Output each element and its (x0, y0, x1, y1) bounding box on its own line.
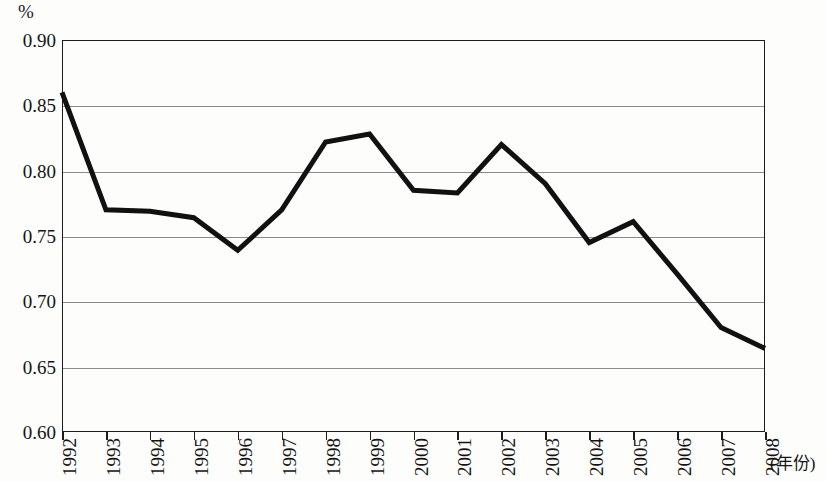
x-tick-label: 1995 (191, 438, 210, 476)
x-tick-label: 1999 (367, 438, 386, 476)
series-plot (62, 40, 765, 432)
y-axis-tick-labels: 0.900.850.800.750.700.650.60 (0, 40, 56, 432)
line-chart: % 0.900.850.800.750.700.650.60 199219931… (0, 0, 827, 481)
y-tick-label: 0.90 (0, 31, 56, 50)
x-tick-label: 2000 (411, 438, 430, 476)
x-tick-label: 2005 (631, 438, 650, 476)
x-tick-label: 1994 (147, 438, 166, 476)
y-axis-unit-label: % (18, 2, 34, 21)
x-axis-caption: (年份) (770, 455, 815, 472)
x-tick-label: 2001 (455, 438, 474, 476)
x-tick-label: 2004 (587, 438, 606, 476)
x-tick-label: 1993 (103, 438, 122, 476)
y-tick-label: 0.60 (0, 423, 56, 442)
x-tick-label: 2007 (719, 438, 738, 476)
y-tick-label: 0.65 (0, 357, 56, 376)
y-tick-label: 0.70 (0, 292, 56, 311)
x-tick-label: 1998 (323, 438, 342, 476)
x-axis-tick-labels: 1992199319941995199619971998199920002001… (62, 438, 765, 481)
y-tick-label: 0.85 (0, 96, 56, 115)
x-tick-label: 1996 (235, 438, 254, 476)
y-tick-label: 0.75 (0, 227, 56, 246)
x-tick-label: 2003 (543, 438, 562, 476)
x-tick-label: 2002 (499, 438, 518, 476)
x-tick-label: 1997 (279, 438, 298, 476)
x-tick-label: 2006 (675, 438, 694, 476)
series-line-path (62, 92, 765, 348)
y-tick-label: 0.80 (0, 161, 56, 180)
x-tick-label: 1992 (60, 438, 79, 476)
